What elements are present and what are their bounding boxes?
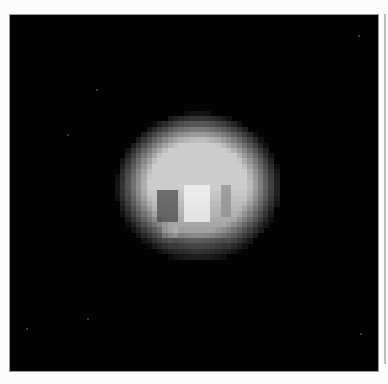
body-pixel	[253, 233, 259, 239]
astronomical-image	[10, 15, 378, 371]
body-pixel	[242, 243, 248, 249]
noise-speck	[358, 35, 360, 37]
body-pixel	[237, 249, 243, 255]
body-pixel	[268, 217, 274, 223]
noise-speck	[67, 134, 69, 136]
noise-speck	[96, 89, 98, 91]
body-pixel	[247, 238, 253, 244]
body-pixel	[274, 201, 280, 207]
page-edge-strip	[384, 14, 386, 364]
body-pixel	[221, 254, 227, 260]
noise-speck	[26, 328, 28, 330]
body-pixel	[258, 227, 264, 233]
noise-speck	[87, 318, 89, 320]
body-pixel	[263, 222, 269, 228]
planetary-body	[10, 15, 378, 371]
noise-speck	[360, 333, 362, 335]
